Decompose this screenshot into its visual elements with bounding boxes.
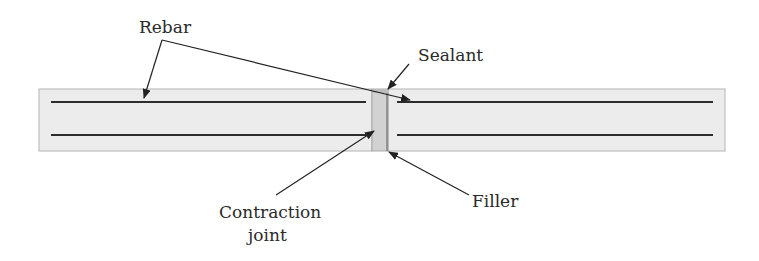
leader-filler — [389, 152, 469, 195]
label-filler: Filler — [472, 191, 519, 211]
label-sealant: Sealant — [418, 45, 483, 65]
label-contraction-joint-line2: joint — [246, 225, 287, 245]
leader-sealant — [388, 64, 409, 89]
joint-diagram: Rebar Sealant Contraction joint Filler — [0, 0, 759, 261]
label-contraction-joint-line1: Contraction — [219, 202, 321, 222]
left-slab — [39, 89, 372, 151]
right-slab — [388, 89, 725, 151]
label-rebar: Rebar — [139, 17, 192, 37]
joint-filler — [372, 89, 388, 151]
